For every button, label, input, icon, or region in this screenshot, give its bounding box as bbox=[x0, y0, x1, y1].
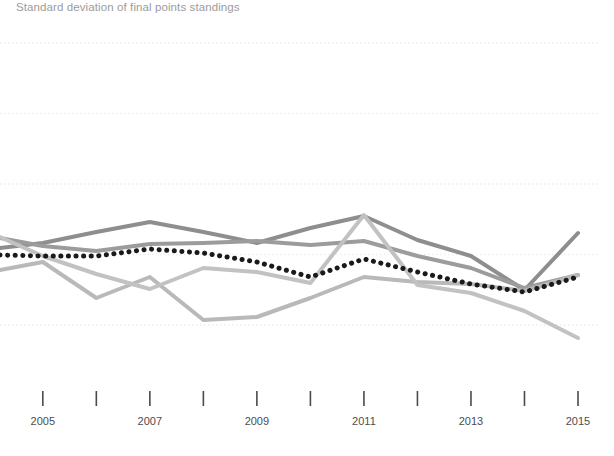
line-chart-plot bbox=[0, 0, 614, 456]
chart-container: Standard deviation of final points stand… bbox=[0, 0, 614, 456]
x-axis-ticks bbox=[43, 391, 578, 406]
x-tick-label-2011: 2011 bbox=[334, 415, 394, 427]
x-tick-label-2015: 2015 bbox=[548, 415, 608, 427]
x-tick-label-2007: 2007 bbox=[120, 415, 180, 427]
x-tick-label-2005: 2005 bbox=[13, 415, 73, 427]
series-group bbox=[0, 215, 578, 338]
x-tick-label-2009: 2009 bbox=[227, 415, 287, 427]
x-tick-label-2013: 2013 bbox=[441, 415, 501, 427]
